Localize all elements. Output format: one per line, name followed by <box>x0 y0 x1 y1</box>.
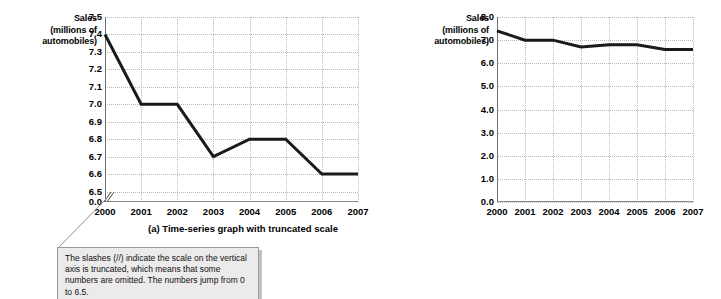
y-tick-label: 3.0 <box>481 128 494 138</box>
x-tick-label: 2004 <box>598 206 619 217</box>
y-tick-label: 5.0 <box>481 81 494 91</box>
panel-caption-a: (a) Time-series graph with truncated sca… <box>118 223 368 235</box>
x-tick-label: 2001 <box>131 206 152 217</box>
x-tick-label: 2000 <box>486 206 507 217</box>
gridline-vertical <box>693 17 694 202</box>
x-tick-label: 2003 <box>570 206 591 217</box>
y-axis-tick-labels-a: 6.56.66.76.86.97.07.17.27.37.47.50.0 <box>76 17 102 202</box>
y-tick-label: 6.8 <box>89 134 102 144</box>
plot-area-a <box>105 17 358 202</box>
x-tick-label: 2005 <box>275 206 296 217</box>
y-tick-label: 6.9 <box>89 117 102 127</box>
y-tick-label: 7.4 <box>89 29 102 39</box>
x-tick-label: 2001 <box>514 206 535 217</box>
y-tick-label: 2.0 <box>481 151 494 161</box>
gridline-vertical <box>358 17 359 202</box>
chart-panel-b: Sales (millions of automobiles) 0.01.02.… <box>380 0 721 299</box>
x-tick-label: 2005 <box>626 206 647 217</box>
y-tick-label: 6.0 <box>481 58 494 68</box>
x-tick-label: 2004 <box>239 206 260 217</box>
y-tick-label: 7.0 <box>89 99 102 109</box>
y-tick-label: 8.0 <box>481 12 494 22</box>
data-line-a <box>105 17 358 202</box>
gridline-horizontal <box>497 202 693 203</box>
x-tick-label: 2007 <box>347 206 368 217</box>
data-line-b <box>497 17 693 202</box>
y-tick-label: 6.7 <box>89 152 102 162</box>
y-tick-label: 7.1 <box>89 82 102 92</box>
x-tick-label: 2006 <box>311 206 332 217</box>
x-tick-label: 2002 <box>167 206 188 217</box>
y-tick-label: 7.0 <box>481 35 494 45</box>
y-tick-label: 1.0 <box>481 174 494 184</box>
series-polyline <box>105 34 358 174</box>
y-tick-label: 7.3 <box>89 47 102 57</box>
y-axis-tick-labels-b: 0.01.02.03.04.05.06.07.08.0 <box>468 17 494 202</box>
y-tick-label: 6.6 <box>89 169 102 179</box>
x-tick-label: 2002 <box>542 206 563 217</box>
x-axis-tick-labels-b: 20002001200220032004200520062007 <box>497 206 693 219</box>
y-tick-label: 7.5 <box>89 12 102 22</box>
leader-line-icon <box>55 196 110 250</box>
chart-panel-a: Sales (millions of automobiles) 6.56.66.… <box>0 0 380 299</box>
truncation-note-callout: The slashes (//) indicate the scale on t… <box>57 247 259 299</box>
plot-area-b <box>497 17 693 202</box>
x-axis-tick-labels-a: 20002001200220032004200520062007 <box>105 206 358 219</box>
series-polyline <box>497 31 693 50</box>
x-tick-label: 2007 <box>682 206 703 217</box>
x-tick-label: 2006 <box>654 206 675 217</box>
figure-root: Sales (millions of automobiles) 6.56.66.… <box>0 0 721 299</box>
y-tick-label: 4.0 <box>481 105 494 115</box>
y-tick-label: 7.2 <box>89 64 102 74</box>
x-tick-label: 2003 <box>203 206 224 217</box>
